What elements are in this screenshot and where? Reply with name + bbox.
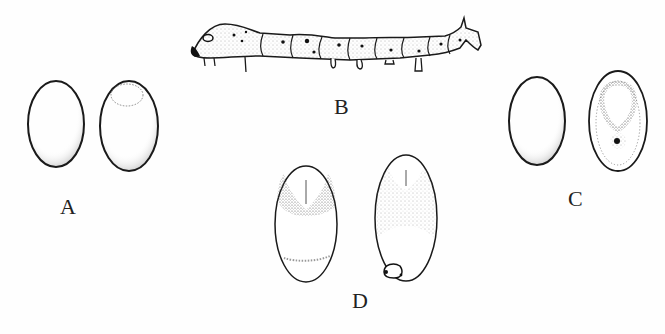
egg-c-right <box>589 71 647 171</box>
panel-a-eggs <box>28 81 158 171</box>
egg-d-right-head-dot-2 <box>400 274 403 277</box>
egg-a-left <box>28 81 84 167</box>
panel-d-label: D <box>352 290 368 312</box>
egg-c-left <box>509 77 565 165</box>
egg-c-dot <box>614 138 620 144</box>
panel-a-label: A <box>60 196 76 218</box>
illustration-canvas <box>0 0 665 334</box>
larva-body <box>193 18 481 60</box>
panel-b-label: B <box>334 96 349 118</box>
egg-a-right <box>100 81 158 171</box>
panel-d-eggs <box>275 155 437 282</box>
egg-d-right-head-dot <box>384 270 388 274</box>
panel-b-larva <box>191 18 481 72</box>
panel-c-label: C <box>568 188 583 210</box>
panel-c-eggs <box>509 71 647 171</box>
